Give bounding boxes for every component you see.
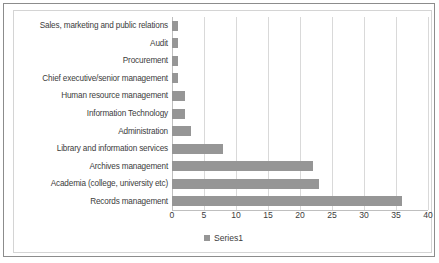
category-label: Audit xyxy=(26,35,172,53)
bar-row xyxy=(172,140,428,158)
value-axis-tick: 30 xyxy=(359,210,369,220)
bar xyxy=(172,91,185,101)
category-label: Sales, marketing and public relations xyxy=(26,17,172,35)
bar-row xyxy=(172,122,428,140)
bar xyxy=(172,38,178,48)
value-axis-tick: 10 xyxy=(231,210,241,220)
category-label: Human resource management xyxy=(26,87,172,105)
category-label: Chief executive/senior management xyxy=(26,70,172,88)
bar xyxy=(172,56,178,66)
value-axis-tick: 40 xyxy=(423,210,433,220)
category-label: Administration xyxy=(26,122,172,140)
bar-row xyxy=(172,52,428,70)
bar-row xyxy=(172,70,428,88)
bar xyxy=(172,144,223,154)
bar xyxy=(172,161,313,171)
category-label: Library and information services xyxy=(26,140,172,158)
chart-container: Sales, marketing and public relationsAud… xyxy=(13,10,432,253)
category-label: Procurement xyxy=(26,52,172,70)
bar-row xyxy=(172,87,428,105)
bar-row xyxy=(172,157,428,175)
bar xyxy=(172,21,178,31)
value-axis-tick: 35 xyxy=(391,210,401,220)
bar-row xyxy=(172,17,428,35)
value-axis-tick-labels: 0510152025303540 xyxy=(172,210,428,226)
category-label: Academia (college, university etc) xyxy=(26,175,172,193)
bar-series-series1 xyxy=(172,17,428,210)
page-frame: Sales, marketing and public relationsAud… xyxy=(3,3,435,257)
bar-row xyxy=(172,175,428,193)
bar xyxy=(172,73,178,83)
value-axis-tick: 25 xyxy=(327,210,337,220)
value-axis-tick: 5 xyxy=(202,210,207,220)
legend-swatch-icon xyxy=(204,235,210,241)
bar xyxy=(172,109,185,119)
gridline-40 xyxy=(428,17,429,210)
bar-row xyxy=(172,105,428,123)
value-axis-tick: 0 xyxy=(170,210,175,220)
chart-legend: Series1 xyxy=(14,233,433,243)
plot-area xyxy=(172,17,428,210)
bar-row xyxy=(172,192,428,210)
category-label: Archives management xyxy=(26,157,172,175)
category-label: Information Technology xyxy=(26,105,172,123)
bar xyxy=(172,179,319,189)
legend-entry-label: Series1 xyxy=(214,233,243,243)
value-axis-tick: 20 xyxy=(295,210,305,220)
category-axis-labels: Sales, marketing and public relationsAud… xyxy=(26,17,172,210)
value-axis-tick: 15 xyxy=(263,210,273,220)
category-label: Records management xyxy=(26,192,172,210)
bar-row xyxy=(172,35,428,53)
bar xyxy=(172,196,402,206)
bar xyxy=(172,126,191,136)
